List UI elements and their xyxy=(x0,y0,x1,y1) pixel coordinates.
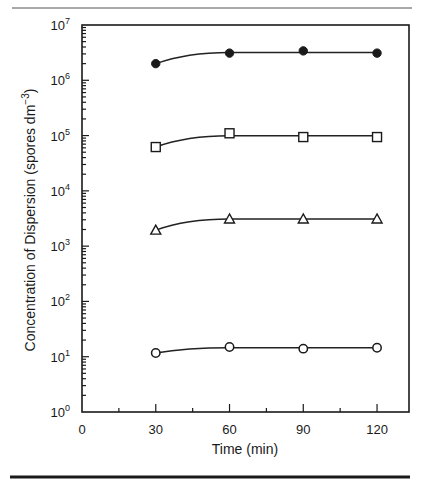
x-tick-label: 60 xyxy=(222,422,236,437)
filled-circle-marker xyxy=(225,49,233,57)
y-tick-label: 101 xyxy=(51,348,70,365)
open-square-marker xyxy=(151,143,160,152)
open-square-marker xyxy=(373,133,382,142)
fitted-curve xyxy=(156,219,377,230)
fitted-curve xyxy=(156,52,377,63)
open-circle-marker xyxy=(225,343,233,351)
y-tick-label: 105 xyxy=(51,127,70,144)
x-tick-label: 30 xyxy=(149,422,163,437)
y-tick-label: 100 xyxy=(51,403,70,420)
fitted-curve xyxy=(156,348,377,353)
filled-circle-marker xyxy=(299,47,307,55)
y-axis-title-text: Concentration of Dispersion (spores dm−3… xyxy=(20,89,38,352)
bottom-rule xyxy=(10,476,410,479)
x-tick-label: 120 xyxy=(366,422,388,437)
plot-area: 1001011021031041051061070306090120 xyxy=(51,16,409,437)
x-tick-label: 0 xyxy=(78,422,85,437)
open-circle-marker xyxy=(299,344,307,352)
y-tick-label: 103 xyxy=(51,237,70,254)
open-square-marker xyxy=(225,129,234,138)
open-circle-marker xyxy=(152,349,160,357)
y-tick-label: 107 xyxy=(51,16,70,33)
y-tick-label: 102 xyxy=(51,292,70,309)
y-tick-label: 106 xyxy=(51,71,70,88)
filled-circle-marker xyxy=(373,49,381,57)
open-circle-marker xyxy=(373,344,381,352)
y-tick-label: 104 xyxy=(51,182,70,199)
fitted-curve xyxy=(156,136,377,147)
y-axis-title: Concentration of Dispersion (spores dm−3… xyxy=(20,89,38,352)
chart-figure: 1001011021031041051061070306090120 Conce… xyxy=(0,0,423,488)
open-square-marker xyxy=(299,133,308,142)
x-tick-label: 90 xyxy=(296,422,310,437)
filled-circle-marker xyxy=(152,59,160,67)
x-axis-title: Time (min) xyxy=(212,441,278,457)
